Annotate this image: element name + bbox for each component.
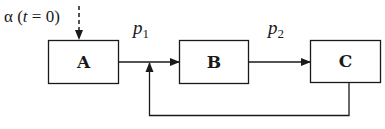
node-b-label: B: [207, 52, 221, 72]
node-a: A: [49, 41, 119, 84]
edge-a-to-b-label: p1: [131, 17, 149, 41]
initial-condition-label: α (t = 0): [4, 7, 60, 26]
edge-b-to-c-label: p2: [266, 17, 284, 41]
node-b: B: [180, 41, 249, 84]
flow-diagram: α (t = 0) A B C p1 p2: [0, 0, 385, 129]
node-a-label: A: [76, 52, 91, 72]
alpha-symbol: α: [4, 7, 13, 26]
node-c: C: [311, 41, 381, 83]
node-c-label: C: [339, 51, 353, 71]
